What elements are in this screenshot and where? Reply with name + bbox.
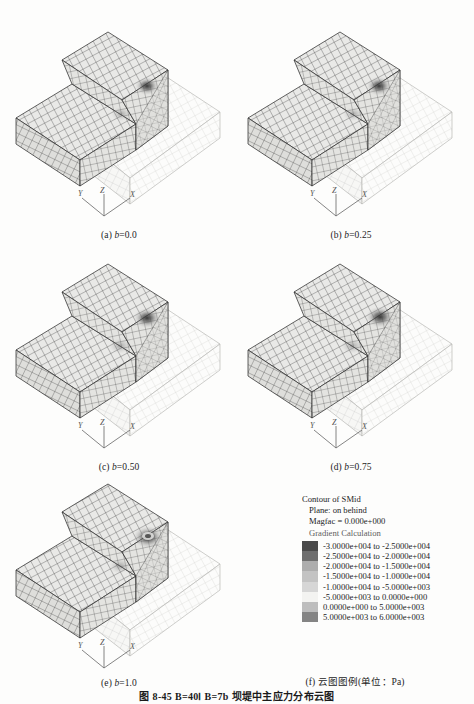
fem-mesh-model-c: Y Z X <box>8 240 230 456</box>
legend-swatch <box>302 592 318 602</box>
legend-band-label: -5.0000e+003 to 0.0000e+000 <box>323 592 427 602</box>
subfigure-panel-b: Y Z X (b) b=0.25 <box>240 8 462 240</box>
axis-label-y: Y <box>310 421 316 430</box>
legend-band-row: -1.5000e+004 to -1.0000e+004 <box>302 571 430 581</box>
legend-swatch <box>302 541 318 551</box>
figure-caption: 图 8-45 B=40Ⅰ B=7b 坝堤中主应力分布云图 <box>0 688 474 703</box>
legend-swatch <box>302 582 318 592</box>
legend-swatch <box>302 571 318 581</box>
legend-caption-f: (f) 云图图例(单位：Pa) <box>240 674 470 688</box>
subfigure-index-a: (a) <box>101 230 112 240</box>
legend-band-label: -3.0000e+004 to -2.5000e+004 <box>323 541 430 551</box>
subfigure-index-c: (c) <box>99 462 110 472</box>
legend-band-label: -2.0000e+004 to -1.5000e+004 <box>323 561 430 571</box>
subfigure-value-d: =0.75 <box>349 462 371 472</box>
legend-swatch <box>302 551 318 561</box>
legend-swatch <box>302 612 318 622</box>
axis-label-y: Y <box>78 421 84 430</box>
legend-band-row: -2.5000e+004 to -2.0000e+004 <box>302 551 430 561</box>
fem-mesh-model-e: Y Z X <box>8 472 230 672</box>
contour-plot-c: Y Z X <box>8 240 230 456</box>
legend-band-row: 0.0000e+000 to 5.0000e+003 <box>302 602 430 612</box>
subfigure-caption-e: (e) b=1.0 <box>8 678 230 688</box>
legend-band-label: 0.0000e+000 to 5.0000e+003 <box>323 602 424 612</box>
legend-swatch <box>302 561 318 571</box>
fem-mesh-model-b: Y Z X <box>240 8 462 224</box>
subfigure-panel-a: Y Z X (a) b=0.0 <box>8 8 230 240</box>
legend-swatch <box>302 602 318 612</box>
subfigure-panel-c: Y Z X (c) b=0.50 <box>8 240 230 472</box>
axis-label-z: Z <box>332 186 337 195</box>
contour-plot-a: Y Z X <box>8 8 230 224</box>
contour-legend: Contour of SMid Plane: on behind Magfac … <box>302 494 430 622</box>
axis-label-y: Y <box>78 189 84 198</box>
subfigure-index-e: (e) <box>101 678 112 688</box>
subfigure-index-d: (d) <box>330 462 341 472</box>
legend-band-label: -2.5000e+004 to -2.0000e+004 <box>323 551 430 561</box>
subfigure-caption-b: (b) b=0.25 <box>240 230 462 240</box>
legend-title: Contour of SMid <box>302 494 430 505</box>
subfigure-caption-a: (a) b=0.0 <box>8 230 230 240</box>
axis-label-y: Y <box>78 641 84 650</box>
subfigure-value-c: =0.50 <box>117 462 139 472</box>
legend-band-row: -5.0000e+003 to 0.0000e+000 <box>302 592 430 602</box>
subfigure-value-b: =0.25 <box>349 230 371 240</box>
contour-plot-e: Y Z X <box>8 472 230 672</box>
legend-band-label: 5.0000e+003 to 6.0000e+003 <box>323 612 424 622</box>
axis-label-z: Z <box>100 638 105 647</box>
fem-mesh-model-d: Y Z X <box>240 240 462 456</box>
axis-label-z: Z <box>100 418 105 427</box>
legend-band-row: -1.0000e+004 to -5.0000e+003 <box>302 582 430 592</box>
axis-label-z: Z <box>100 186 105 195</box>
legend-band-row: -3.0000e+004 to -2.5000e+004 <box>302 541 430 551</box>
subfigure-panel-d: Y Z X (d) b=0.75 <box>240 240 462 472</box>
legend-method-line: Gradient Calculation <box>309 528 430 539</box>
axis-label-y: Y <box>310 189 316 198</box>
subfigure-value-a: =0.0 <box>119 230 137 240</box>
legend-plane-line: Plane: on behind <box>309 505 430 516</box>
legend-band-label: -1.5000e+004 to -1.0000e+004 <box>323 571 430 581</box>
fem-mesh-model-a: Y Z X <box>8 8 230 224</box>
legend-band-row: 5.0000e+003 to 6.0000e+003 <box>302 612 430 622</box>
subfigure-index-b: (b) <box>330 230 341 240</box>
legend-panel-f: Contour of SMid Plane: on behind Magfac … <box>240 472 470 688</box>
contour-plot-d: Y Z X <box>240 240 462 456</box>
legend-band-list: -3.0000e+004 to -2.5000e+004 -2.5000e+00… <box>302 541 430 623</box>
subfigure-panel-e: Y Z X (e) b=1.0 <box>8 472 230 688</box>
contour-plot-b: Y Z X <box>240 8 462 224</box>
subfigure-caption-d: (d) b=0.75 <box>240 462 462 472</box>
legend-header: Contour of SMid Plane: on behind Magfac … <box>302 494 430 539</box>
legend-band-row: -2.0000e+004 to -1.5000e+004 <box>302 561 430 571</box>
legend-magfac-line: Magfac = 0.000e+000 <box>309 516 430 527</box>
axis-label-z: Z <box>332 418 337 427</box>
legend-band-label: -1.0000e+004 to -5.0000e+003 <box>323 582 430 592</box>
figure-page: Y Z X (a) b=0.0 <box>0 0 474 704</box>
subfigure-caption-c: (c) b=0.50 <box>8 462 230 472</box>
subfigure-value-e: =1.0 <box>119 678 137 688</box>
